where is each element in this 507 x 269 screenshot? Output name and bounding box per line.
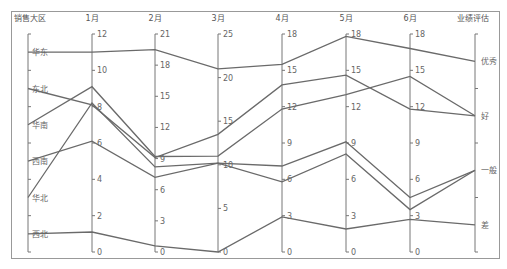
axis-name: 销售大区	[14, 13, 46, 23]
tick-label: 15	[287, 66, 297, 75]
tick-label: 0	[160, 248, 165, 257]
category-label: 一般	[481, 165, 497, 175]
tick-label: 0	[97, 248, 102, 257]
axis-name: 6月	[403, 14, 416, 23]
tick-label: 3	[160, 217, 165, 226]
tick-label: 15	[351, 66, 361, 75]
category-label: 华东	[32, 47, 48, 57]
category-label: 华北	[32, 193, 48, 203]
series-line	[28, 103, 475, 198]
category-label: 差	[481, 220, 489, 230]
tick-label: 15	[415, 66, 425, 75]
series-line	[28, 36, 475, 69]
tick-label: 18	[287, 30, 297, 39]
tick-label: 18	[415, 30, 425, 39]
tick-label: 0	[287, 248, 292, 257]
series-line	[28, 75, 475, 157]
category-label: 优秀	[481, 56, 497, 66]
tick-label: 21	[160, 30, 170, 39]
category-label: 西南	[32, 156, 48, 166]
tick-label: 9	[287, 139, 292, 148]
tick-label: 6	[351, 175, 356, 184]
axis-name: 2月	[148, 14, 161, 23]
tick-label: 12	[97, 30, 107, 39]
tick-label: 2	[97, 212, 102, 221]
tick-label: 9	[415, 139, 420, 148]
tick-label: 3	[351, 212, 356, 221]
category-label: 华南	[32, 120, 48, 130]
series-line	[28, 217, 475, 252]
tick-label: 12	[160, 123, 170, 132]
category-label: 好	[481, 111, 489, 121]
tick-label: 5	[223, 204, 228, 213]
axis-name: 1月	[85, 14, 98, 23]
axis-name: 4月	[275, 14, 288, 23]
tick-label: 10	[97, 66, 107, 75]
series-line	[28, 141, 475, 209]
tick-label: 20	[223, 74, 233, 83]
tick-label: 25	[223, 30, 233, 39]
category-label: 东北	[32, 84, 48, 94]
tick-label: 15	[223, 117, 233, 126]
axis-name: 业绩评估	[457, 13, 489, 23]
series-group	[28, 36, 475, 252]
tick-label: 15	[160, 92, 170, 101]
chart-frame	[12, 12, 500, 259]
category-label: 西北	[32, 230, 48, 239]
tick-label: 6	[160, 186, 165, 195]
tick-label: 0	[415, 248, 420, 257]
axis-name: 5月	[339, 14, 352, 23]
axis-name: 3月	[211, 14, 224, 23]
series-line	[28, 76, 475, 156]
tick-label: 12	[351, 103, 361, 112]
tick-label: 4	[97, 175, 102, 184]
tick-label: 6	[415, 175, 420, 184]
tick-label: 0	[351, 248, 356, 257]
parallel-coordinates-chart: 销售大区1月0246810122月0369121518213月051015202…	[0, 0, 507, 269]
tick-label: 18	[160, 61, 170, 70]
